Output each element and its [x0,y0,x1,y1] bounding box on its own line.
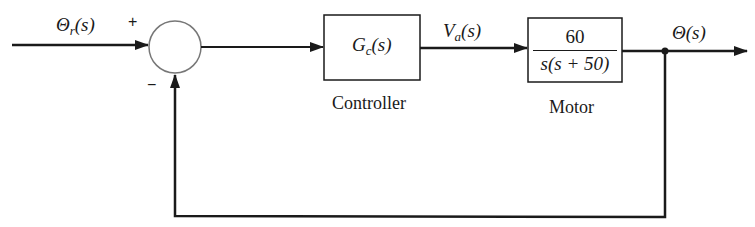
minus-sign: − [147,76,156,94]
motor-transfer-function: 60 s(s + 50) [528,18,622,82]
motor-numerator: 60 [533,26,617,51]
motor-label: Motor [549,97,594,118]
input-signal-label: Θr(s) [56,14,95,39]
summing-junction [149,21,201,73]
plus-sign: + [128,13,137,31]
control-voltage-label: Va(s) [443,20,481,45]
controller-label: Controller [332,93,406,114]
output-symbol: Θ [672,22,686,43]
input-arg: (s) [75,14,95,35]
va-arg: (s) [461,20,481,41]
output-arg: (s) [686,22,706,43]
va-symbol: V [443,20,455,41]
controller-tf-arg: (s) [372,34,392,55]
motor-denominator: s(s + 50) [541,51,610,75]
controller-tf-symbol: G [352,34,366,55]
input-symbol: Θ [56,14,70,35]
output-signal-label: Θ(s) [672,22,706,44]
controller-transfer-function: Gc(s) [352,34,392,59]
